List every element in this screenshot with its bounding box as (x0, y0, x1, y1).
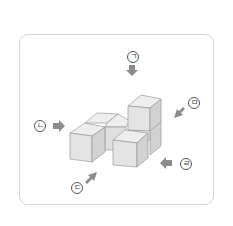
view-label-digeut: ㄷ (71, 182, 83, 194)
cube-front-left (70, 123, 105, 162)
view-label-nieun: ㄴ (34, 120, 46, 132)
view-label-mieum: ㅁ (188, 97, 200, 109)
arrow-back-right-icon (174, 107, 185, 118)
arrow-front-left-icon (85, 172, 97, 184)
cube-column-upper (128, 95, 161, 131)
cube-diagram (0, 0, 233, 226)
arrow-right-icon (160, 157, 172, 169)
cube-front-right (113, 130, 148, 167)
arrow-top-icon (126, 65, 138, 76)
view-label-giyeok: ㄱ (127, 51, 139, 63)
view-label-rieul: ㄹ (180, 158, 192, 170)
arrow-left-icon (53, 120, 65, 132)
